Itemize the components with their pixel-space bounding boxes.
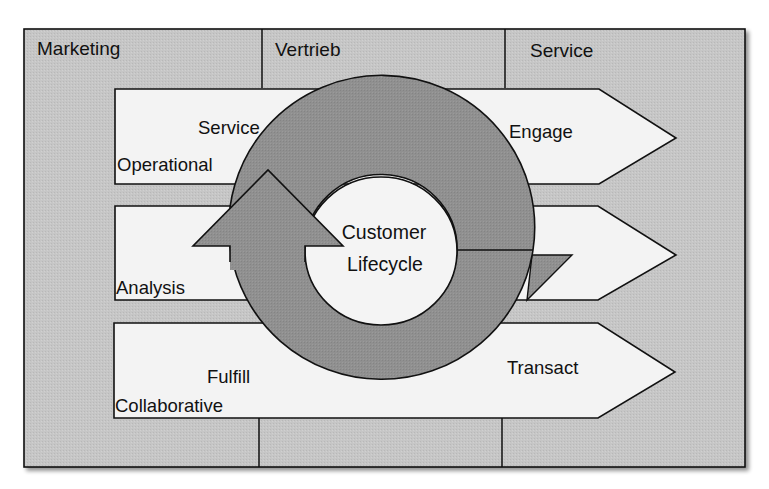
column-header-marketing: Marketing [37, 38, 120, 59]
center-label-line1: Customer [342, 221, 427, 243]
band-category-collaborative: Collaborative [115, 395, 223, 416]
column-header-service: Service [530, 40, 593, 61]
band-label-transact: Transact [507, 357, 578, 378]
center-label-line2: Lifecycle [347, 253, 423, 275]
band-category-operational: Operational [117, 154, 213, 175]
crm-customer-lifecycle-diagram: Marketing Vertrieb Service Service Opera… [0, 0, 769, 489]
band-phase-fulfill: Fulfill [207, 366, 250, 387]
column-header-vertrieb: Vertrieb [275, 39, 340, 60]
band-phase-service: Service [198, 117, 260, 138]
center-circle [305, 177, 457, 325]
band-label-engage: Engage [509, 121, 573, 142]
band-category-analysis: Analysis [116, 277, 185, 298]
